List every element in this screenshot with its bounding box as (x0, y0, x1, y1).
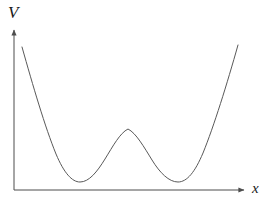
potential-plot-figure: V x (0, 0, 266, 204)
y-axis-label: V (8, 4, 18, 21)
plot-canvas (0, 0, 266, 204)
potential-curve (22, 45, 238, 182)
x-axis-label: x (252, 181, 259, 196)
